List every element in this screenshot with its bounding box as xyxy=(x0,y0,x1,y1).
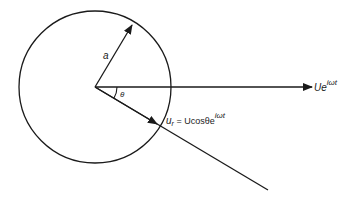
radial-velocity-arrow xyxy=(95,87,157,124)
flow-diagram: a θ Ueiωt ur = Ucosθeiωt xyxy=(0,0,351,203)
radius-arrow xyxy=(95,25,132,87)
angle-arc xyxy=(114,87,117,98)
radial-velocity-label: ur = Ucosθeiωt xyxy=(166,111,226,127)
free-stream-label: Ueiωt xyxy=(314,78,338,93)
radius-label: a xyxy=(103,50,109,61)
angle-label: θ xyxy=(120,90,125,99)
